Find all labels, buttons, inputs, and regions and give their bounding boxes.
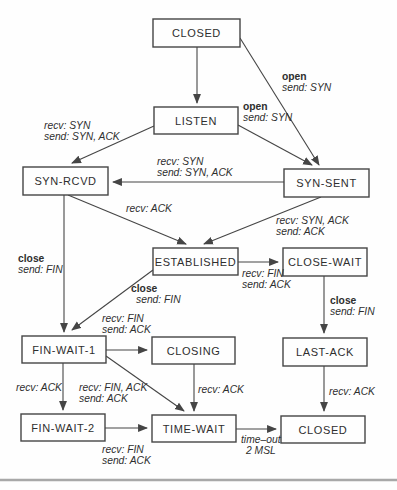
node-close-wait: CLOSE-WAIT <box>283 248 367 276</box>
edge-label-recv-ack-closing: recv: ACK <box>198 384 245 395</box>
edge-label-recv-syn-send-syn-ack-mid: recv: SYNsend: SYN, ACK <box>157 156 234 178</box>
state-label: LISTEN <box>175 115 217 127</box>
state-label: FIN-WAIT-1 <box>32 344 96 356</box>
edge-label-open-send-syn-upper: opensend: SYN <box>282 71 332 93</box>
edge-label-recv-syn-ack-send-ack: recv: SYN, ACKsend: ACK <box>276 215 350 237</box>
edge-label-open-send-syn-lower: opensend: SYN <box>243 101 293 123</box>
edge-label-recv-ack-fin-wait: recv: ACK <box>16 382 63 393</box>
edge-label-close-send-fin-mid: closesend: FIN <box>131 283 181 305</box>
node-fin-wait-1: FIN-WAIT-1 <box>22 336 106 363</box>
node-closed-top: CLOSED <box>153 19 240 47</box>
edge-label-close-send-fin-right: closesend: FIN <box>330 295 375 317</box>
state-label: FIN-WAIT-2 <box>31 422 95 434</box>
edge-label-close-send-fin-left: closesend: FIN <box>18 253 63 275</box>
state-label: CLOSE-WAIT <box>288 256 362 268</box>
state-label: SYN-SENT <box>296 177 356 189</box>
state-label: TIME-WAIT <box>163 423 225 435</box>
node-fin-wait-2: FIN-WAIT-2 <box>21 414 105 441</box>
node-established: ESTABLISHED <box>153 248 238 275</box>
tcp-state-diagram-page: CLOSEDLISTENSYN-RCVDSYN-SENTESTABLISHEDC… <box>0 0 397 490</box>
node-listen: LISTEN <box>154 107 238 134</box>
state-label: ESTABLISHED <box>155 256 237 268</box>
node-closed-bottom: CLOSED <box>281 416 365 443</box>
state-label: LAST-ACK <box>296 346 354 358</box>
node-syn-sent: SYN-SENT <box>284 169 369 197</box>
edge-listen-to-syn-sent <box>238 125 312 165</box>
edge-label-recv-ack-last-ack: recv: ACK <box>329 386 376 397</box>
edge-label-recv-fin-send-ack-time-wait: recv: FINsend: ACK <box>102 444 152 466</box>
state-label: CLOSED <box>172 27 221 39</box>
edge-label-recv-syn-send-syn-ack-left: recv: SYNsend: SYN, ACK <box>44 120 121 142</box>
edge-label-recv-ack-syn-rcvd: recv: ACK <box>126 203 173 214</box>
node-last-ack: LAST-ACK <box>283 338 367 366</box>
edge-label-recv-fin-send-ack-closing: recv: FINsend: ACK <box>102 313 152 335</box>
node-syn-rcvd: SYN-RCVD <box>23 167 108 195</box>
state-label: SYN-RCVD <box>34 175 96 187</box>
tcp-state-diagram: CLOSEDLISTENSYN-RCVDSYN-SENTESTABLISHEDC… <box>0 0 397 490</box>
node-time-wait: TIME-WAIT <box>152 415 236 442</box>
state-label: CLOSING <box>167 345 221 357</box>
node-closing: CLOSING <box>152 337 235 364</box>
edge-label-timeout-2msl: time–out2 MSL <box>241 434 282 456</box>
state-label: CLOSED <box>299 424 348 436</box>
edge-label-recv-fin-ack-send-ack: recv: FIN, ACKsend: ACK <box>79 382 148 404</box>
